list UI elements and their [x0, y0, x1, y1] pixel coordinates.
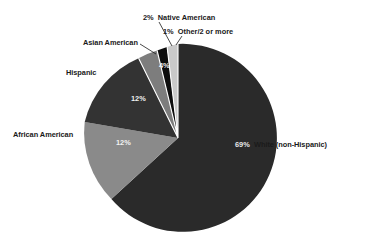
callout-other-name: Other/2 or more: [178, 27, 233, 36]
callout-other: 1% Other/2 or more: [163, 27, 233, 36]
slice-pct-white: 69%: [235, 140, 250, 149]
pie-chart-figure: 2% Native American 1% Other/2 or more As…: [0, 0, 365, 245]
callout-native-american: 2% Native American: [143, 13, 215, 22]
slice-pct-asian-american: 4%: [159, 61, 170, 70]
callout-african-american-name: African American: [13, 130, 73, 139]
slice-pct-african-american: 12%: [116, 138, 131, 147]
callout-asian-american-name: Asian American: [83, 38, 138, 47]
callout-native-american-name: Native American: [158, 13, 216, 22]
callout-white-name: White (non-Hispanic): [254, 140, 327, 149]
callout-native-american-pct: 2%: [143, 13, 154, 22]
pie-chart-canvas: [0, 0, 365, 245]
callout-hispanic-name: Hispanic: [66, 68, 96, 77]
callout-other-pct: 1%: [163, 27, 174, 36]
slice-pct-hispanic: 12%: [131, 94, 146, 103]
